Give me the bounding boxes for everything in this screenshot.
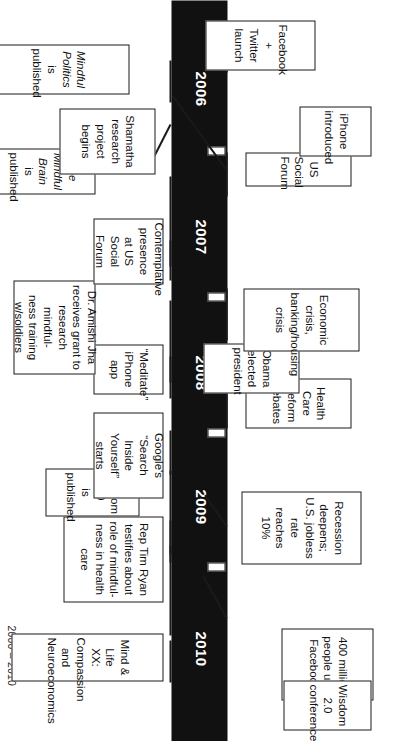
connector-economic-crisis: [225, 288, 227, 340]
event-text-economic-crisis: Economic crisis, banking/housing crisis: [272, 292, 331, 347]
year-label-2010: 2010: [192, 631, 209, 666]
event-box-mindful-politics[interactable]: Mindful Politicsis published: [0, 44, 129, 94]
event-box-meditate-app[interactable]: “Meditate” iPhone app: [93, 344, 163, 394]
connector-amishi-jha: [169, 300, 171, 382]
band-tick-3: [207, 428, 225, 437]
event-box-facebook-twitter[interactable]: Facebook + Twitter launch: [205, 20, 315, 70]
event-text-mindful-politics-title: Mindful Politics: [60, 50, 87, 87]
event-text-recession: Recession deepens; U.S. jobless rate rea…: [257, 495, 345, 560]
event-box-mind-life[interactable]: Mind & Life XX: Compassion and Neuroecon…: [11, 633, 163, 681]
event-box-iphone[interactable]: iPhone introduced: [299, 106, 371, 156]
connector-wisdom-published: [169, 470, 171, 554]
event-text-mind-life: Mind & Life XX: Compassion and Neuroecon…: [43, 637, 131, 677]
event-text-google-sit: Google's “Search Inside Yourself” starts: [91, 416, 165, 494]
connector-mindful-politics: [169, 60, 171, 102]
event-box-us-social-forum[interactable]: US Social Forum: [245, 152, 351, 186]
event-text-meditate-app: “Meditate” iPhone app: [106, 348, 150, 390]
band-tick-2: [207, 292, 225, 301]
connector-wisdom-conf: [169, 640, 171, 682]
year-label-2007: 2007: [192, 219, 209, 254]
event-box-google-sit[interactable]: Google's “Search Inside Yourself” starts: [93, 412, 163, 498]
event-text-facebook-twitter: Facebook + Twitter launch: [231, 24, 290, 66]
year-label-2006: 2006: [192, 71, 209, 106]
event-text-contemplative: Contemplative presence at US Social Foru…: [91, 222, 165, 280]
event-box-rep-tim-ryan[interactable]: Rep Tim Ryan testifies about role of min…: [63, 516, 163, 602]
event-text-mindful-brain-rest: is published: [7, 152, 34, 201]
rotated-figure-wrapper: 2000 – 2010 2006 2007 2008 2009 2010: [0, 0, 395, 741]
timeline-diagram: 2000 – 2010 2006 2007 2008 2009 2010: [0, 0, 395, 741]
event-text-obama: Obama elected president: [229, 347, 273, 389]
event-box-amishi-jha[interactable]: Dr. Amishi Jha receives grant to researc…: [13, 280, 95, 374]
event-box-shamatha[interactable]: Shamatha research project begins: [59, 108, 155, 174]
connector-us-social-forum: [225, 152, 227, 196]
event-text-mindful-politics-rest: is published: [30, 48, 57, 97]
event-text-rep-tim-ryan: Rep Tim Ryan testifies about role of min…: [76, 520, 150, 598]
event-box-recession[interactable]: Recession deepens; U.S. jobless rate rea…: [241, 491, 361, 564]
event-box-economic-crisis[interactable]: Economic crisis, banking/housing crisis: [243, 288, 359, 351]
event-box-wisdom-conf[interactable]: Wisdom 2.0 conference: [283, 680, 371, 730]
band-tick-4: [207, 562, 225, 571]
event-text-us-social-forum: US Social Forum: [276, 156, 320, 182]
event-text-iphone: iPhone introduced: [320, 110, 349, 152]
event-text-wisdom-conf: Wisdom 2.0 conference: [305, 684, 349, 726]
event-text-amishi-jha: Dr. Amishi Jha receives grant to researc…: [10, 284, 98, 370]
event-text-shamatha: Shamatha research project begins: [78, 112, 137, 170]
event-box-contemplative[interactable]: Contemplative presence at US Social Foru…: [93, 218, 163, 284]
connector-google-sit: [169, 430, 171, 474]
year-label-2009: 2009: [192, 489, 209, 524]
event-text-mindful-politics: Mindful Politicsis published: [29, 48, 88, 90]
connector-mindful-brain: [169, 176, 171, 266]
